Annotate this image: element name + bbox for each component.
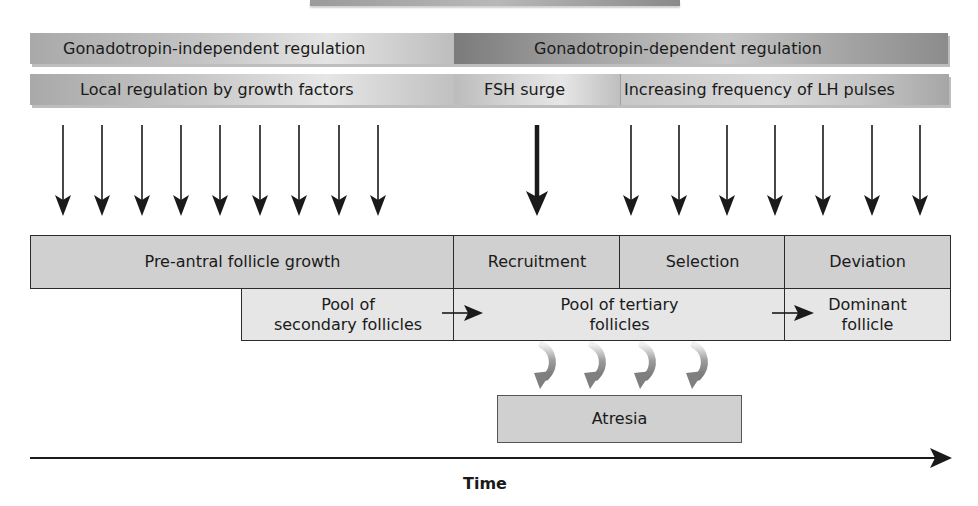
curved-arrow-icon [686,345,704,389]
transition-arrow-secondary-to-tertiary [442,305,483,321]
right-arrow-icon [772,305,814,321]
timeline-axis [30,448,952,468]
curved-arrow-icon [634,345,652,389]
curved-arrow-icon [534,345,552,389]
curved-arrow-icon [584,345,602,389]
right-arrow-icon [442,305,483,321]
transition-arrow-tertiary-to-dominant [772,305,814,321]
atresia-curved-arrows [534,345,704,389]
diagram-overlay [0,0,978,506]
timeline-label: Time [0,474,970,493]
